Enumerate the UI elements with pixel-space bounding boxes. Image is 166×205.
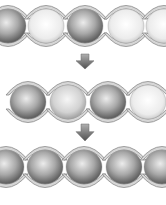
tube-stage-2 [6, 82, 166, 123]
tube-stage-3 [0, 147, 166, 188]
ball-dark [67, 9, 103, 43]
tube-stage-1 [0, 6, 166, 47]
ball-light [28, 9, 64, 43]
ball-light [108, 9, 144, 43]
ball-dark [10, 85, 46, 119]
peristalsis-diagram [0, 0, 166, 205]
ball-dark [66, 150, 102, 184]
down-arrow-icon [76, 124, 94, 141]
down-arrow-icon [76, 54, 94, 69]
ball-dark [27, 150, 63, 184]
ball-dark [106, 150, 142, 184]
ball-dark [90, 85, 126, 119]
ball-light-gray [50, 85, 86, 119]
ball-light [130, 85, 166, 119]
